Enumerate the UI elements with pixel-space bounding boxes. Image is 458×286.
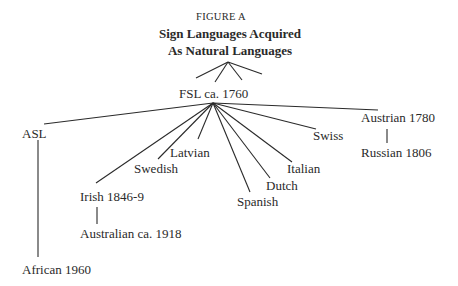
node-dutch: Dutch xyxy=(266,179,298,192)
node-fsl: FSL ca. 1760 xyxy=(179,87,248,100)
node-irish: Irish 1846-9 xyxy=(80,190,144,203)
node-african: African 1960 xyxy=(22,263,91,276)
node-australian: Australian ca. 1918 xyxy=(80,227,181,240)
node-asl: ASL xyxy=(22,127,47,140)
node-russian: Russian 1806 xyxy=(361,146,431,159)
node-spanish: Spanish xyxy=(237,195,278,208)
figure-title-line2: As Natural Languages xyxy=(150,44,310,57)
node-italian: Italian xyxy=(287,162,320,175)
node-latvian: Latvian xyxy=(170,146,210,159)
node-swedish: Swedish xyxy=(134,162,178,175)
figure-title-line1: Sign Languages Acquired xyxy=(150,27,310,40)
figure-label: FIGURE A xyxy=(196,12,246,23)
node-austrian: Austrian 1780 xyxy=(361,111,435,124)
edge-fsl-dutch xyxy=(213,103,270,178)
node-swiss: Swiss xyxy=(313,129,343,142)
